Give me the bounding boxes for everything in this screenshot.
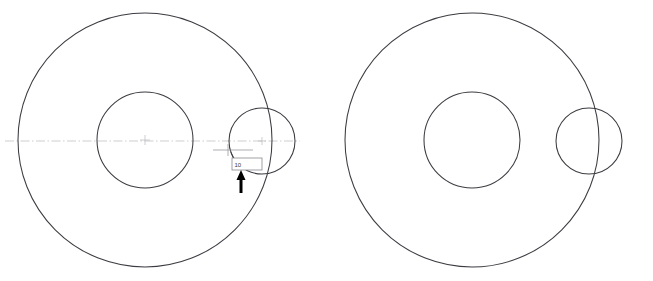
small-circle[interactable] (556, 108, 622, 174)
outer-circle[interactable] (345, 13, 599, 267)
dimension-value: 10 (235, 162, 242, 168)
pointer-arrow (237, 170, 246, 193)
inner-circle[interactable] (424, 92, 520, 188)
technical-drawing-svg: 10 (0, 0, 653, 281)
drawing-canvas: 10 (0, 0, 653, 281)
center-mark-main (140, 135, 150, 145)
left-view (5, 13, 300, 267)
dimension-annotation: 10 (213, 144, 262, 193)
right-view (345, 13, 622, 267)
center-mark-small (258, 137, 266, 145)
